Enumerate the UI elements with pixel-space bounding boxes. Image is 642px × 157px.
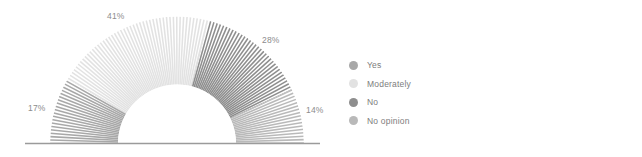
data-label-moderately: 41% bbox=[107, 11, 125, 21]
legend-dot-icon bbox=[349, 79, 358, 88]
data-label-yes: 17% bbox=[28, 103, 46, 113]
legend-item[interactable]: Yes bbox=[349, 60, 411, 70]
data-label-no: 28% bbox=[262, 35, 280, 45]
legend-item-label: No bbox=[367, 97, 378, 107]
legend-item-label: No opinion bbox=[367, 116, 410, 126]
legend-item[interactable]: Moderately bbox=[349, 79, 411, 89]
data-label-no-opinion: 14% bbox=[306, 105, 324, 115]
legend-item-label: Moderately bbox=[367, 79, 411, 89]
legend-dot-icon bbox=[349, 98, 358, 107]
legend-dot-icon bbox=[349, 116, 358, 125]
legend-item-label: Yes bbox=[367, 60, 381, 70]
gauge-chart-svg bbox=[0, 0, 642, 157]
legend-dot-icon bbox=[349, 61, 358, 70]
chart-legend: YesModeratelyNoNo opinion bbox=[349, 60, 411, 126]
legend-item[interactable]: No opinion bbox=[349, 116, 411, 126]
legend-item[interactable]: No bbox=[349, 97, 411, 107]
half-donut-chart: 41% 28% 17% 14% YesModeratelyNoNo opinio… bbox=[0, 0, 642, 157]
